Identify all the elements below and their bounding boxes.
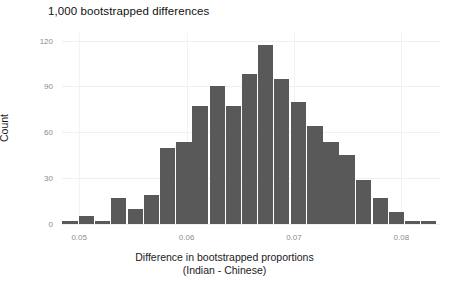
histogram-bar bbox=[291, 102, 306, 224]
histogram-bar bbox=[160, 148, 175, 224]
histogram-bar bbox=[389, 212, 404, 224]
histogram-bars bbox=[62, 33, 440, 224]
y-tick-label-120: 120 bbox=[40, 36, 53, 45]
histogram-figure: 1,000 bootstrapped differences Count 030… bbox=[0, 0, 449, 286]
plot-area bbox=[62, 33, 440, 224]
histogram-bar bbox=[176, 142, 191, 225]
histogram-bar bbox=[323, 142, 338, 225]
x-tick-label-0p06: 0.06 bbox=[179, 233, 195, 242]
histogram-bar bbox=[339, 155, 354, 224]
x-axis: Difference in bootstrapped proportions (… bbox=[0, 224, 449, 286]
histogram-bar bbox=[192, 106, 207, 224]
histogram-bar bbox=[226, 106, 241, 224]
histogram-bar bbox=[242, 74, 257, 224]
y-tick-label-90: 90 bbox=[44, 82, 53, 91]
histogram-bar bbox=[111, 198, 126, 224]
histogram-bar bbox=[258, 45, 273, 224]
x-tick-label-0p05: 0.05 bbox=[71, 233, 87, 242]
x-axis-title: Difference in bootstrapped proportions (… bbox=[0, 251, 449, 276]
y-tick-label-30: 30 bbox=[44, 174, 53, 183]
histogram-bar bbox=[210, 86, 225, 224]
histogram-bar bbox=[356, 180, 371, 224]
histogram-bar bbox=[128, 209, 143, 224]
histogram-bar bbox=[307, 126, 322, 224]
x-axis-title-line2: (Indian - Chinese) bbox=[0, 264, 449, 277]
x-tick-label-0p07: 0.07 bbox=[286, 233, 302, 242]
page-title: 1,000 bootstrapped differences bbox=[48, 5, 209, 17]
x-tick-label-0p08: 0.08 bbox=[394, 233, 410, 242]
y-axis-title: Count bbox=[0, 114, 10, 142]
histogram-bar bbox=[79, 216, 94, 224]
y-tick-label-60: 60 bbox=[44, 128, 53, 137]
histogram-bar bbox=[373, 198, 388, 224]
histogram-bar bbox=[144, 195, 159, 224]
histogram-bar bbox=[274, 79, 289, 224]
x-axis-title-line1: Difference in bootstrapped proportions bbox=[135, 251, 313, 263]
